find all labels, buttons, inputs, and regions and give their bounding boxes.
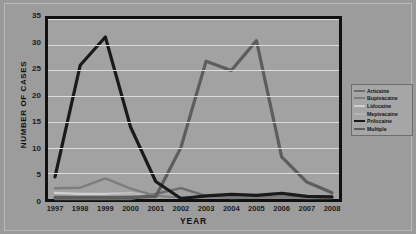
chart-legend: ArticaineBupivacaineLidocaineMepivacaine… — [351, 84, 413, 136]
x-tick-label: 2008 — [315, 204, 349, 213]
y-tick-label: 20 — [19, 92, 41, 100]
legend-item: Bupivacaine — [354, 95, 410, 103]
legend-swatch-icon — [354, 90, 365, 92]
y-tick-label: 15 — [19, 118, 41, 126]
gridline — [48, 173, 339, 174]
plot-inner — [48, 19, 339, 199]
legend-item: Mepivacaine — [354, 110, 410, 118]
gridline — [48, 70, 339, 71]
legend-label: Prilocaine — [367, 118, 392, 124]
y-axis-ticks: 05101520253035 — [15, 16, 41, 202]
legend-swatch-icon — [354, 128, 365, 130]
legend-swatch-icon — [354, 105, 365, 107]
y-tick-label: 30 — [19, 39, 41, 47]
legend-label: Mepivacaine — [367, 111, 398, 117]
legend-item: Articaine — [354, 87, 410, 95]
figure-frame: NUMBER OF CASES 05101520253035 199719981… — [4, 3, 412, 231]
legend-label: Bupivacaine — [367, 95, 398, 101]
gridline — [48, 96, 339, 97]
legend-item: Multiple — [354, 125, 410, 133]
y-tick-label: 35 — [19, 12, 41, 20]
legend-swatch-icon — [354, 97, 365, 99]
legend-item: Lidocaine — [354, 102, 410, 110]
y-tick-label: 25 — [19, 65, 41, 73]
legend-label: Lidocaine — [367, 103, 391, 109]
chart-screenshot: NUMBER OF CASES 05101520253035 199719981… — [0, 0, 416, 234]
legend-swatch-icon — [354, 120, 365, 122]
gridline — [48, 148, 339, 149]
plot-area — [45, 16, 342, 202]
x-axis-ticks: 1997199819992000200120022003200420052006… — [45, 204, 342, 216]
y-tick-label: 10 — [19, 145, 41, 153]
legend-label: Multiple — [367, 126, 387, 132]
series-lines — [48, 19, 339, 199]
gridline — [48, 45, 339, 46]
y-tick-label: 5 — [19, 171, 41, 179]
x-axis-title: YEAR — [45, 216, 342, 226]
legend-item: Prilocaine — [354, 117, 410, 125]
legend-label: Articaine — [367, 88, 389, 94]
legend-swatch-icon — [354, 113, 365, 115]
gridline — [48, 122, 339, 123]
gridline — [48, 19, 339, 20]
